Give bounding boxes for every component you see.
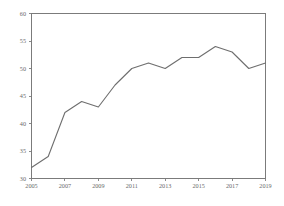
chart-canvas: 30354045505560 2005200720092011201320152… [0,0,284,206]
y-tick-label-60: 60 [20,10,26,17]
x-tick-label-2019: 2019 [259,182,271,189]
y-tick-label-40: 40 [20,120,26,127]
x-tick-label-2013: 2013 [159,182,171,189]
x-tick-label-2005: 2005 [25,182,37,189]
x-tick-label-2015: 2015 [192,182,204,189]
x-tick-label-2017: 2017 [226,182,238,189]
plot-area-frame [32,14,266,179]
x-axis-tick-labels: 20052007200920112013201520172019 [25,182,271,189]
y-tick-label-50: 50 [20,65,26,72]
x-tick-label-2007: 2007 [59,182,71,189]
line-chart-figure: 30354045505560 2005200720092011201320152… [0,0,284,206]
x-tick-label-2009: 2009 [92,182,104,189]
y-tick-label-45: 45 [20,92,26,99]
y-tick-label-30: 30 [20,175,26,182]
data-series-line [32,47,266,168]
y-tick-label-55: 55 [20,37,26,44]
y-tick-label-35: 35 [20,147,26,154]
y-axis-tick-labels: 30354045505560 [20,10,26,182]
x-tick-label-2011: 2011 [126,182,138,189]
